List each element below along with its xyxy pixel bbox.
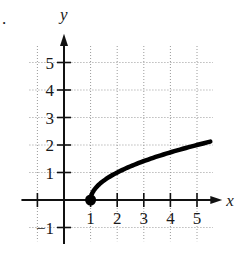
y-tick-label: 3 — [46, 109, 55, 128]
x-axis-arrow-icon — [210, 196, 222, 204]
y-tick-label: 4 — [46, 81, 55, 100]
x-tick-label: 5 — [193, 209, 202, 228]
function-curve — [91, 142, 211, 200]
x-tick-label: 4 — [166, 209, 175, 228]
y-tick-label: 2 — [46, 136, 55, 155]
y-axis-arrow-icon — [60, 34, 68, 46]
x-tick-label: 1 — [86, 209, 95, 228]
graph-figure: . 12345−112345 x y — [0, 0, 235, 254]
y-tick-label: 1 — [46, 164, 55, 183]
x-axis-label: x — [225, 191, 234, 210]
y-tick-label: 5 — [46, 54, 55, 73]
x-tick-label: 2 — [113, 209, 122, 228]
y-axis-label: y — [58, 5, 68, 24]
y-tick-label: −1 — [36, 219, 54, 238]
x-tick-label: 3 — [140, 209, 149, 228]
problem-label: . — [2, 9, 6, 28]
closed-endpoint-dot — [85, 195, 96, 206]
